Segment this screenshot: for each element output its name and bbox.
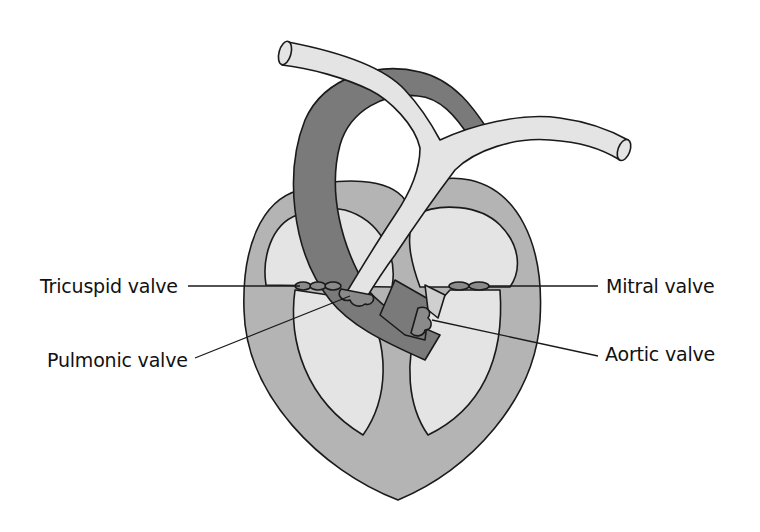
pulmonic-valve-label: Pulmonic valve (47, 351, 188, 370)
tricuspid-valve-label: Tricuspid valve (40, 277, 178, 296)
tricuspid-leaflet-3 (325, 282, 341, 290)
mitral-leaflet-1 (449, 282, 469, 290)
aortic-valve-label: Aortic valve (605, 345, 715, 364)
mitral-leaflet-2 (469, 282, 489, 290)
heart-valves-diagram (0, 0, 760, 532)
mitral-valve-label: Mitral valve (606, 277, 715, 296)
tricuspid-leaflet-2 (310, 282, 326, 290)
